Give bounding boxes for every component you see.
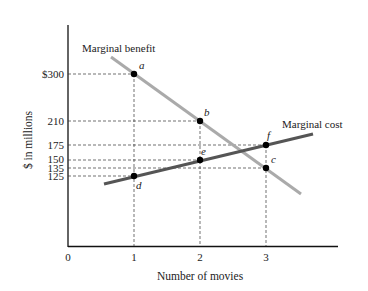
point-c <box>263 165 269 171</box>
svg-text:0: 0 <box>65 251 71 263</box>
point-e <box>197 157 203 163</box>
svg-text:1: 1 <box>131 251 137 263</box>
marginal-benefit-line <box>111 57 301 194</box>
label-e: e <box>201 145 206 157</box>
mb-label: Marginal benefit <box>82 42 155 54</box>
y-tick-labels: $300 210 175 150 135 125 <box>42 68 65 182</box>
svg-text:2: 2 <box>197 251 203 263</box>
label-c: c <box>271 153 276 165</box>
svg-text:125: 125 <box>48 170 65 182</box>
svg-text:$300: $300 <box>42 68 65 80</box>
svg-text:3: 3 <box>263 251 269 263</box>
label-a: a <box>139 59 145 71</box>
point-a <box>131 71 137 77</box>
label-b: b <box>204 106 210 118</box>
y-axis-title: $ in millions <box>22 110 34 169</box>
mc-label: Marginal cost <box>282 118 343 130</box>
x-tick-labels: 0 1 2 3 <box>65 251 269 263</box>
point-b <box>197 118 203 124</box>
svg-text:210: 210 <box>48 115 65 127</box>
guide-lines <box>68 74 266 246</box>
point-f <box>263 142 269 148</box>
x-axis-title: Number of movies <box>157 270 244 282</box>
marginal-analysis-chart: a b c d e f Marginal benefit Marginal co… <box>0 0 368 291</box>
svg-text:175: 175 <box>48 139 65 151</box>
label-f: f <box>267 129 272 141</box>
label-d: d <box>136 179 142 191</box>
